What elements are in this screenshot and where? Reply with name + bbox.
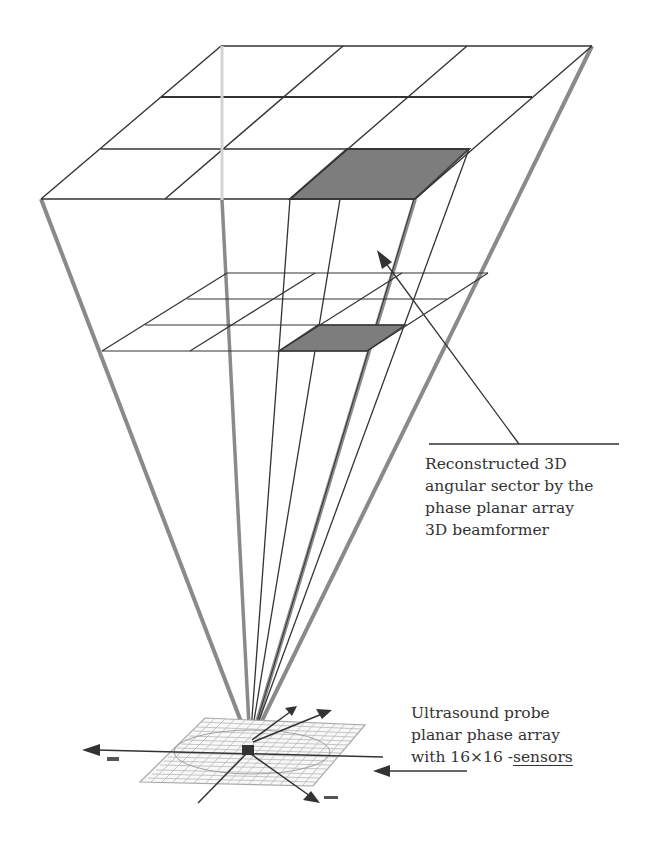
probe-line3-mid: 6×16 - xyxy=(460,748,513,766)
beam-lines xyxy=(41,46,592,745)
sector-annotation-line: angular sector by the xyxy=(425,475,593,497)
sector-annotation-line: Reconstructed 3D xyxy=(425,453,593,475)
probe-line3-pre: with 1 xyxy=(411,748,460,766)
probe-annotation-line: planar phase array xyxy=(411,724,573,746)
sector-annotation: Reconstructed 3D angular sector by the p… xyxy=(425,453,593,541)
probe-annotation-line: with 16×16 -sensors xyxy=(411,746,573,768)
far-shaded-cell xyxy=(290,149,469,199)
near-plane-grid xyxy=(102,273,488,351)
sector-annotation-line: 3D beamformer xyxy=(425,519,593,541)
probe-annotation: Ultrasound probe planar phase array with… xyxy=(411,702,573,768)
far-plane-grid xyxy=(41,46,592,199)
probe-line3-sensors: sensors xyxy=(513,748,573,766)
sector-annotation-line: phase planar array xyxy=(425,497,593,519)
probe-annotation-line: Ultrasound probe xyxy=(411,702,573,724)
